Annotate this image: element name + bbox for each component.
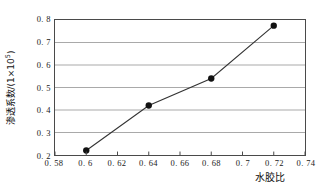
y-tick-label: 0. 4 [37,105,51,115]
y-tick-label: 0. 5 [37,83,51,93]
plot-area [54,19,306,156]
y-tick-label: 0. 7 [37,37,51,47]
x-tick-label: 0. 68 [202,158,221,168]
x-tick-label: 0. 64 [139,158,158,168]
x-tick-label: 0. 72 [265,158,284,168]
x-tick-label: 0. 74 [297,158,316,168]
x-tick-label: 0. 58 [45,158,64,168]
y-tick-label: 0. 6 [37,60,51,70]
y-axis-title-tail: ) [6,51,16,55]
permeability-vs-water-binder-ratio-chart: 0. 20. 30. 40. 50. 60. 70. 8 渗透系数/(1×105… [0,0,329,196]
y-axis-tick-labels: 0. 20. 30. 40. 50. 60. 70. 8 [24,19,51,156]
y-tick-label: 0. 8 [37,14,51,24]
x-tick-label: 0. 7 [236,158,250,168]
x-tick-label: 0. 66 [171,158,190,168]
x-axis-tick-marks [55,20,305,155]
y-axis-title: 渗透系数/(1×105) [4,51,17,126]
x-axis-title: 水胶比 [255,169,285,184]
x-tick-label: 0. 62 [108,158,127,168]
x-tick-label: 0. 6 [78,158,92,168]
y-axis-title-exponent: 5 [4,54,12,58]
y-tick-label: 0. 3 [37,128,51,138]
y-axis-title-text: 渗透系数/(1×10 [6,58,16,125]
